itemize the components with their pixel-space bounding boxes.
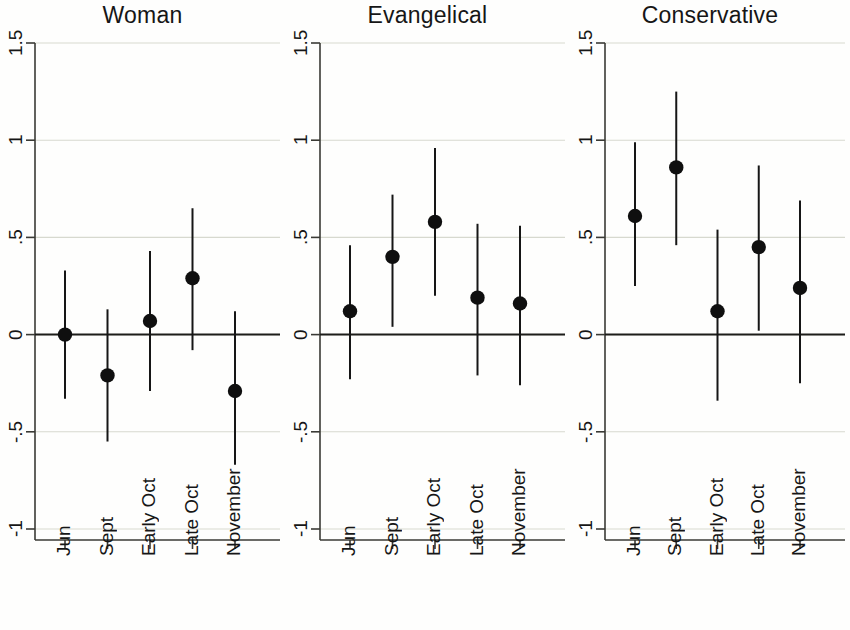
x-axis-tick-label: Early Oct (707, 478, 726, 556)
x-axis-tick-label: Jun (624, 525, 643, 556)
x-axis-tick-label: Jun (54, 525, 73, 556)
y-axis-tick-label: .5 (4, 213, 26, 261)
x-axis-tick-label: Jun (339, 525, 358, 556)
x-axis-tick-label: Late Oct (748, 484, 767, 556)
data-point (470, 290, 484, 304)
y-axis-tick-label: 1.5 (4, 19, 26, 67)
x-axis-tick-label: November (509, 468, 528, 556)
y-axis-tick-label: -1 (4, 505, 26, 553)
data-point (428, 215, 442, 229)
y-axis-tick-label: .5 (574, 213, 596, 261)
x-axis-tick-label: November (789, 468, 808, 556)
panel-conservative: Conservative1.51.50-.5-1JunSeptEarly Oct… (570, 0, 850, 630)
data-point (185, 271, 199, 285)
data-point (228, 384, 242, 398)
y-axis-tick-label: 1 (289, 116, 311, 164)
y-axis-tick-label: 1.5 (289, 19, 311, 67)
coefficient-plot-figure: Woman1.51.50-.5-1JunSeptEarly OctLate Oc… (0, 0, 850, 630)
y-axis-tick-label: -.5 (574, 408, 596, 456)
y-axis-tick-label: .5 (289, 213, 311, 261)
y-axis-tick-label: -.5 (4, 408, 26, 456)
y-axis-tick-label: -1 (574, 505, 596, 553)
data-point (710, 304, 724, 318)
data-point (100, 368, 114, 382)
data-point (385, 250, 399, 264)
data-point (58, 327, 72, 341)
y-axis-tick-label: 1.5 (574, 19, 596, 67)
data-point (513, 296, 527, 310)
x-axis-tick-label: Early Oct (424, 478, 443, 556)
y-axis-tick-label: -.5 (289, 408, 311, 456)
panel-evangelical: Evangelical1.51.50-.5-1JunSeptEarly OctL… (285, 0, 570, 630)
x-axis-tick-label: Sept (665, 517, 684, 556)
data-point (793, 281, 807, 295)
data-point (343, 304, 357, 318)
y-axis-tick-label: -1 (289, 505, 311, 553)
x-axis-tick-label: Late Oct (467, 484, 486, 556)
data-point (143, 314, 157, 328)
x-axis-tick-label: Late Oct (182, 484, 201, 556)
x-axis-tick-label: Sept (97, 517, 116, 556)
x-axis-tick-label: November (224, 468, 243, 556)
y-axis-tick-label: 0 (289, 311, 311, 359)
panel-woman: Woman1.51.50-.5-1JunSeptEarly OctLate Oc… (0, 0, 285, 630)
x-axis-tick-label: Sept (382, 517, 401, 556)
y-axis-tick-label: 1 (574, 116, 596, 164)
data-point (628, 209, 642, 223)
x-axis-tick-label: Early Oct (139, 478, 158, 556)
y-axis-tick-label: 0 (574, 311, 596, 359)
data-point (669, 160, 683, 174)
y-axis-tick-label: 1 (4, 116, 26, 164)
data-point (752, 240, 766, 254)
y-axis-tick-label: 0 (4, 311, 26, 359)
